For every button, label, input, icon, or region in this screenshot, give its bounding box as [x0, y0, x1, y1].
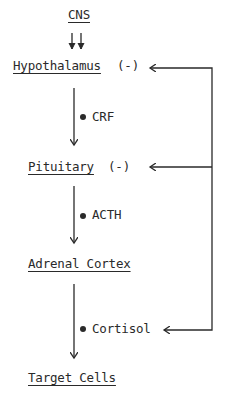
- node-hypothalamus: Hypothalamus: [13, 59, 101, 73]
- node-target-cells: Target Cells: [28, 371, 116, 385]
- signal-dot-icon: [80, 114, 86, 120]
- signal-dot-icon: [80, 213, 86, 219]
- signal-dot-icon: [80, 326, 86, 332]
- node-cns: CNS: [68, 8, 90, 22]
- pituitary-feedback-sign: (-): [108, 160, 130, 174]
- node-pituitary: Pituitary: [28, 160, 94, 174]
- node-adrenal-cortex: Adrenal Cortex: [28, 257, 131, 271]
- hypothalamus-feedback-sign: (-): [117, 59, 139, 73]
- signal-crf: CRF: [92, 110, 114, 124]
- signal-cortisol: Cortisol: [92, 322, 151, 336]
- signal-acth: ACTH: [92, 208, 121, 222]
